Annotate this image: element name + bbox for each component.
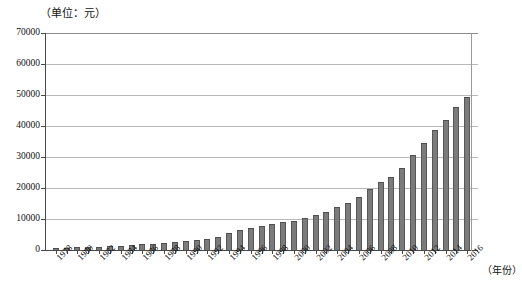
bar-chart: （单位：元） 010000200003000040000500006000070… <box>0 0 522 287</box>
x-axis-tick-label: 2006 <box>358 243 377 262</box>
x-axis-tick-label: 1994 <box>228 243 247 262</box>
x-axis-tick-label: 1984 <box>120 243 139 262</box>
x-axis-tick-label: 2002 <box>315 243 334 262</box>
x-axis-tick-label: 1992 <box>206 243 225 262</box>
x-axis-tick-labels: 1978198019821984198619881990199219941996… <box>0 0 522 287</box>
x-axis-tick-label: 2014 <box>445 243 464 262</box>
x-axis-tick-label: 1982 <box>98 243 117 262</box>
x-axis-tick-label: 1988 <box>163 243 182 262</box>
x-axis-tick-label: 1986 <box>141 243 160 262</box>
x-axis-tick-label: 2000 <box>293 243 312 262</box>
x-axis-tick-label: 1978 <box>55 243 74 262</box>
x-axis-tick-label: 2008 <box>380 243 399 262</box>
x-axis-tick-label: 2012 <box>423 243 442 262</box>
x-axis-tick-label: 1980 <box>76 243 95 262</box>
x-axis-tick-label: 1990 <box>185 243 204 262</box>
x-axis-tick-label: 2010 <box>401 243 420 262</box>
x-axis-tick-label: 1996 <box>250 243 269 262</box>
x-axis-tick-label: 1998 <box>271 243 290 262</box>
x-axis-tick-label: 2016 <box>466 243 485 262</box>
x-axis-tick-label: 2004 <box>336 243 355 262</box>
x-axis-title: （年份） <box>482 262 522 277</box>
